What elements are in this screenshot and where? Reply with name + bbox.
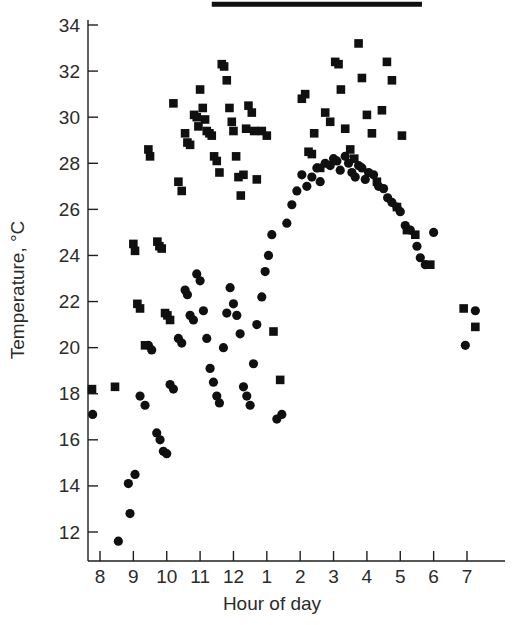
x-tick-label: 11 <box>190 566 210 587</box>
data-point-circle <box>229 299 238 308</box>
x-axis-title: Hour of day <box>223 593 322 614</box>
x-tick-label: 5 <box>395 566 406 587</box>
data-point-circle <box>209 378 218 387</box>
data-point-circle <box>202 334 211 343</box>
data-point-square <box>186 141 195 150</box>
y-tick-label: 26 <box>59 199 80 220</box>
data-point-square <box>201 115 210 124</box>
data-point-square <box>326 117 335 126</box>
data-point-square <box>229 127 238 136</box>
y-axis-tick-labels: 121416182022242628303234 <box>59 15 81 543</box>
x-axis-tick-labels: 891011121234567 <box>95 566 473 587</box>
data-point-circle <box>307 173 316 182</box>
data-point-square <box>337 85 346 94</box>
data-point-circle <box>332 156 341 165</box>
data-point-square <box>196 85 205 94</box>
data-point-circle <box>412 242 421 251</box>
data-point-circle <box>471 306 480 315</box>
data-point-square <box>334 60 343 69</box>
x-tick-label: 10 <box>156 566 177 587</box>
data-point-square <box>222 76 231 85</box>
x-tick-label: 2 <box>295 566 306 587</box>
data-point-square <box>174 177 183 186</box>
data-point-circle <box>189 315 198 324</box>
data-point-circle <box>282 219 291 228</box>
data-point-square <box>250 127 259 136</box>
data-point-square <box>207 131 216 140</box>
data-point-circle <box>206 364 215 373</box>
data-point-circle <box>236 329 245 338</box>
data-point-circle <box>222 308 231 317</box>
x-tick-label: 4 <box>362 566 373 587</box>
data-point-circle <box>421 260 430 269</box>
y-axis-ticks <box>88 25 98 532</box>
data-point-circle <box>461 341 470 350</box>
data-point-square <box>301 90 310 99</box>
data-point-circle <box>267 230 276 239</box>
data-point-square <box>276 376 285 385</box>
data-point-circle <box>287 200 296 209</box>
scatter-plot-figure: 121416182022242628303234 891011121234567… <box>0 0 515 625</box>
y-tick-label: 22 <box>59 291 80 312</box>
y-tick-label: 32 <box>59 61 80 82</box>
data-point-square <box>215 168 224 177</box>
data-point-square <box>227 117 236 126</box>
chart-canvas: 121416182022242628303234 891011121234567… <box>0 0 515 625</box>
data-point-square <box>225 104 234 113</box>
data-point-square <box>363 111 372 120</box>
x-tick-label: 8 <box>95 566 106 587</box>
y-tick-label: 18 <box>59 383 80 404</box>
data-point-circle <box>396 207 405 216</box>
data-series-circles <box>88 152 480 546</box>
data-point-circle <box>369 170 378 179</box>
data-point-circle <box>125 509 134 518</box>
axis-lines <box>88 20 505 561</box>
data-point-circle <box>215 398 224 407</box>
data-point-square <box>471 323 480 332</box>
data-point-circle <box>379 184 388 193</box>
data-point-square <box>239 170 248 179</box>
data-point-square <box>378 106 387 115</box>
x-tick-label: 6 <box>428 566 439 587</box>
data-point-square <box>136 304 145 313</box>
data-point-square <box>354 39 363 48</box>
data-point-circle <box>242 391 251 400</box>
data-point-circle <box>344 159 353 168</box>
data-point-square <box>248 108 257 117</box>
daylight-period-bar <box>212 2 422 7</box>
data-point-circle <box>252 320 261 329</box>
data-point-circle <box>88 410 97 419</box>
data-point-circle <box>162 449 171 458</box>
data-point-circle <box>264 251 273 260</box>
data-point-circle <box>147 345 156 354</box>
daylight-period-bar <box>212 2 422 7</box>
data-point-square <box>459 304 468 313</box>
data-point-circle <box>249 359 258 368</box>
data-point-circle <box>297 170 306 179</box>
y-tick-label: 28 <box>59 153 80 174</box>
data-point-square <box>310 129 319 138</box>
data-point-square <box>253 175 262 184</box>
x-tick-label: 7 <box>462 566 473 587</box>
data-point-square <box>212 157 221 166</box>
data-point-circle <box>302 182 311 191</box>
data-point-square <box>242 124 251 133</box>
data-point-square <box>192 113 201 122</box>
data-point-circle <box>239 382 248 391</box>
data-point-square <box>198 104 207 113</box>
y-tick-label: 12 <box>59 522 80 543</box>
data-point-square <box>88 385 97 394</box>
data-point-square <box>131 247 140 256</box>
data-point-square <box>146 152 155 161</box>
data-point-square <box>358 74 367 83</box>
data-point-circle <box>177 338 186 347</box>
data-point-square <box>157 244 166 253</box>
x-tick-label: 12 <box>223 566 244 587</box>
y-tick-label: 16 <box>59 429 80 450</box>
data-point-square <box>220 62 229 71</box>
y-tick-label: 30 <box>59 107 80 128</box>
data-point-square <box>166 316 175 325</box>
data-point-circle <box>336 166 345 175</box>
data-point-square <box>232 152 241 161</box>
data-point-circle <box>351 173 360 182</box>
